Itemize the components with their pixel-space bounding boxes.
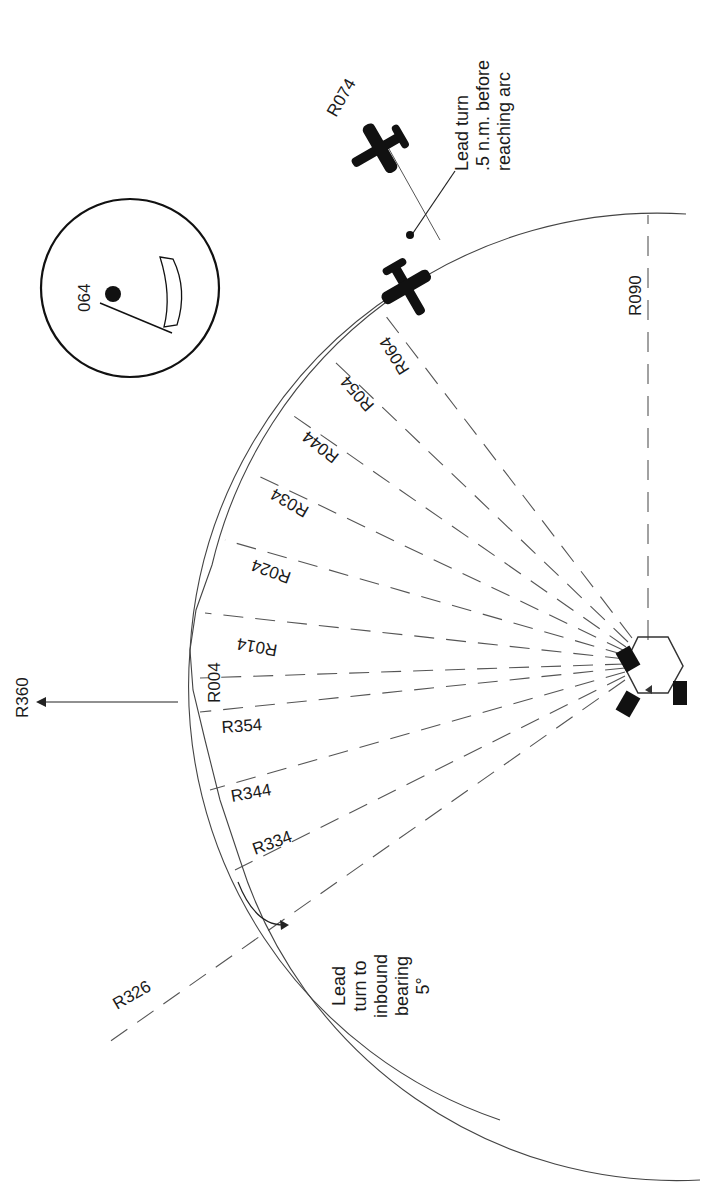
label-r354: R354: [221, 715, 263, 737]
lead-turn-curve: [238, 882, 283, 925]
label-r074: R074: [323, 75, 360, 120]
aircraft-icon: [339, 111, 417, 187]
r074-track: [384, 140, 440, 240]
note-lead-turn-arc: Lead turn .5 n.m. before reaching arc: [452, 60, 514, 171]
note-lead-turn-inbound: Lead turn to inbound bearing 5°: [329, 954, 433, 1018]
note-line-1: Lead turn: [452, 95, 472, 171]
vor-station-icon: [616, 637, 687, 718]
label-r054: R054: [337, 372, 378, 415]
label-r004: R004: [205, 662, 224, 703]
label-r326: R326: [110, 977, 155, 1014]
label-r344: R344: [229, 780, 272, 806]
aircraft-icon: [369, 250, 445, 328]
note-line-3: inbound: [371, 954, 391, 1018]
label-r334: R334: [250, 827, 295, 859]
note-line-1: Lead: [329, 966, 349, 1006]
label-r034: R034: [267, 484, 312, 521]
note-line-2: turn to: [350, 960, 370, 1011]
label-r360: R360: [13, 677, 32, 718]
note-leader-line: [411, 171, 455, 236]
arrowhead-icon: [280, 920, 289, 930]
label-r014: R014: [235, 634, 278, 660]
label-r024: R024: [249, 555, 294, 587]
note-leader-dot: [406, 231, 414, 239]
label-r064: R064: [376, 333, 414, 378]
note-line-2: .5 n.m. before: [473, 60, 493, 171]
note-line-3: reaching arc: [494, 72, 514, 171]
note-line-5: 5°: [413, 977, 433, 994]
inset-heading-label: 064: [75, 284, 94, 312]
label-r044: R044: [299, 427, 343, 467]
inset-bearing-indicator: [41, 199, 219, 377]
note-line-4: bearing: [392, 956, 412, 1016]
label-r090: R090: [626, 275, 645, 316]
dme-arc-diagram: R326 R334 R344 R354 R004 R014 R024 R034 …: [0, 0, 711, 1184]
north-arrowhead-icon: [36, 697, 46, 707]
